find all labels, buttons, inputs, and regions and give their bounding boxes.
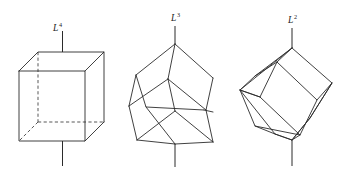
- symmetry-axes-figure: L4 L3 L2: [0, 0, 357, 174]
- axis-label-l2: L2: [288, 14, 297, 26]
- axis-label-l3-base: L: [171, 13, 176, 23]
- axis-label-l3: L3: [171, 12, 180, 24]
- axis-label-l4: L4: [53, 22, 62, 34]
- axis-label-l2-exponent: 2: [294, 13, 297, 20]
- axis-label-l4-exponent: 4: [59, 21, 62, 28]
- axis-label-l2-base: L: [288, 15, 293, 25]
- axis-label-l3-exponent: 3: [177, 11, 180, 18]
- cube-l2: [240, 28, 332, 166]
- cube-l3: [129, 26, 213, 167]
- axis-label-l4-base: L: [53, 23, 58, 33]
- cube-l4: [19, 31, 104, 166]
